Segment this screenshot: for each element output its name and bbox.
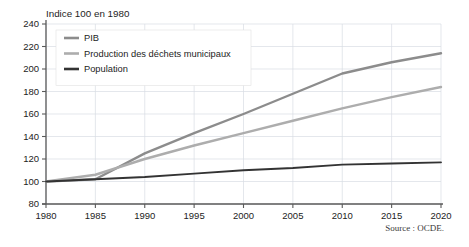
x-tick-label: 2015 bbox=[381, 210, 402, 221]
y-tick-label: 240 bbox=[23, 18, 39, 29]
chart-figure: 80100120140160180200220240 1980198519901… bbox=[0, 0, 469, 247]
y-tick-label: 100 bbox=[23, 176, 39, 187]
legend-label: Production des déchets municipaux bbox=[84, 49, 231, 59]
y-tick-label: 160 bbox=[23, 108, 39, 119]
legend-label: Population bbox=[84, 64, 128, 74]
legend-label: PIB bbox=[84, 33, 99, 43]
chart-axis-title: Indice 100 en 1980 bbox=[46, 8, 130, 19]
x-tick-label: 2010 bbox=[332, 210, 353, 221]
x-tick-label: 1985 bbox=[85, 210, 106, 221]
line-chart: 80100120140160180200220240 1980198519901… bbox=[0, 0, 469, 247]
y-tick-label: 120 bbox=[23, 153, 39, 164]
y-tick-label: 220 bbox=[23, 41, 39, 52]
chart-legend: PIBProduction des déchets municipauxPopu… bbox=[56, 30, 251, 86]
x-tick-label: 1980 bbox=[35, 210, 56, 221]
x-tick-label: 2020 bbox=[430, 210, 451, 221]
x-tick-label: 2005 bbox=[282, 210, 303, 221]
y-tick-label: 80 bbox=[28, 198, 39, 209]
source-note: Source : OCDE. bbox=[385, 223, 444, 233]
x-tick-label: 1995 bbox=[184, 210, 205, 221]
y-tick-label: 200 bbox=[23, 63, 39, 74]
x-tick-label: 1990 bbox=[134, 210, 155, 221]
y-tick-label: 140 bbox=[23, 131, 39, 142]
x-tick-label: 2000 bbox=[233, 210, 254, 221]
y-tick-label: 180 bbox=[23, 86, 39, 97]
